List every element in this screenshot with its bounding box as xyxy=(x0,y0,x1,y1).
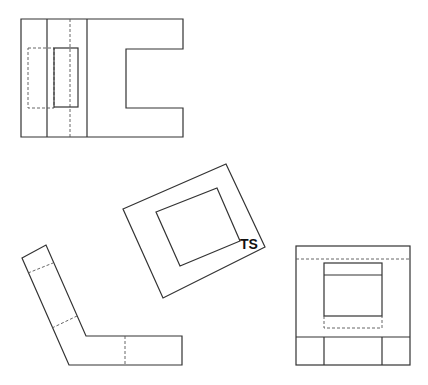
front-view xyxy=(22,245,182,365)
side-view xyxy=(296,246,410,365)
top-view xyxy=(21,19,183,137)
auxiliary-view: TS xyxy=(123,164,265,298)
ts-label: TS xyxy=(240,236,258,252)
projection-drawing: TS xyxy=(0,0,428,385)
